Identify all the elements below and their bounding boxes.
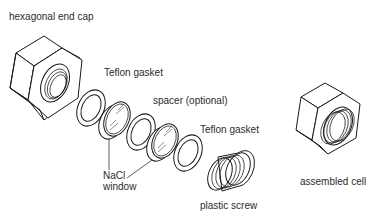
nacl-leader-2 [127, 160, 152, 178]
label-nacl-window-line1: NaCl [103, 170, 125, 181]
assembled-cell-shape [296, 83, 360, 154]
label-spacer: spacer (optional) [153, 95, 227, 106]
label-teflon-gasket-2: Teflon gasket [200, 124, 259, 135]
hexagonal-end-cap-shape [10, 36, 82, 120]
nacl-window-1-shape [94, 98, 136, 144]
plastic-screw-shape [203, 149, 255, 194]
label-hexagonal-end-cap: hexagonal end cap [9, 11, 94, 22]
label-assembled-cell: assembled cell [300, 176, 366, 187]
label-teflon-gasket-1: Teflon gasket [104, 67, 163, 78]
label-plastic-screw: plastic screw [200, 200, 257, 211]
label-nacl-window-line2: window [103, 181, 136, 192]
nacl-window-2-shape [142, 120, 184, 166]
